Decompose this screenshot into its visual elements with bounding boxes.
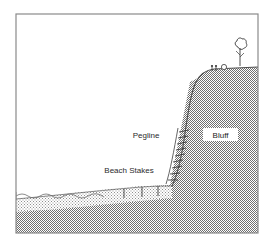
bush-shrub (221, 64, 226, 69)
bluff-label: Bluff (213, 131, 230, 140)
pegline-label: Pegline (133, 131, 160, 140)
bluff-label-box: Bluff (203, 128, 238, 141)
diagram-content: Pegline Beach Stakes Bluff (16, 14, 258, 233)
coastal-bluff-diagram: Pegline Beach Stakes Bluff (0, 0, 274, 251)
diagram-canvas: Pegline Beach Stakes Bluff (0, 0, 274, 251)
beach-stakes-label: Beach Stakes (104, 166, 153, 175)
